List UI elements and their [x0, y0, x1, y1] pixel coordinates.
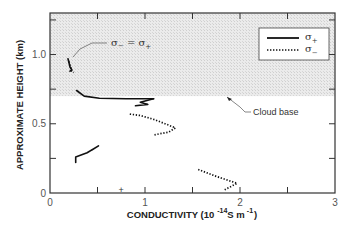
sigma-minus-curve [130, 114, 176, 135]
svg-text:0.5: 0.5 [32, 118, 46, 129]
sigma-plus-curve [76, 146, 99, 163]
svg-text:0: 0 [47, 197, 53, 208]
cloud-base-label: Cloud base [253, 107, 299, 117]
conductivity-chart: 0123 00.51.0 + σ− = σ+ Cloud base σ+ σ− … [0, 0, 350, 237]
cloud-base-annotation: Cloud base [227, 97, 299, 117]
y-axis-tick-labels: 00.51.0 [32, 49, 46, 198]
svg-text:0: 0 [40, 188, 46, 199]
svg-text:1: 1 [142, 197, 148, 208]
x-axis-tick-labels: 0123 [47, 197, 338, 208]
svg-text:3: 3 [332, 197, 338, 208]
sigma-plus-curve [136, 99, 154, 106]
x-axis-title: CONDUCTIVITY (10-14S m-1) [127, 207, 257, 220]
plus-marker: + [119, 185, 124, 195]
y-axis-title: APPROXIMATE HEIGHT (km) [14, 40, 25, 170]
sigma-minus-curve [198, 170, 237, 191]
svg-text:1.0: 1.0 [32, 49, 46, 60]
svg-text:2: 2 [237, 197, 243, 208]
legend: σ+ σ− [259, 28, 329, 60]
